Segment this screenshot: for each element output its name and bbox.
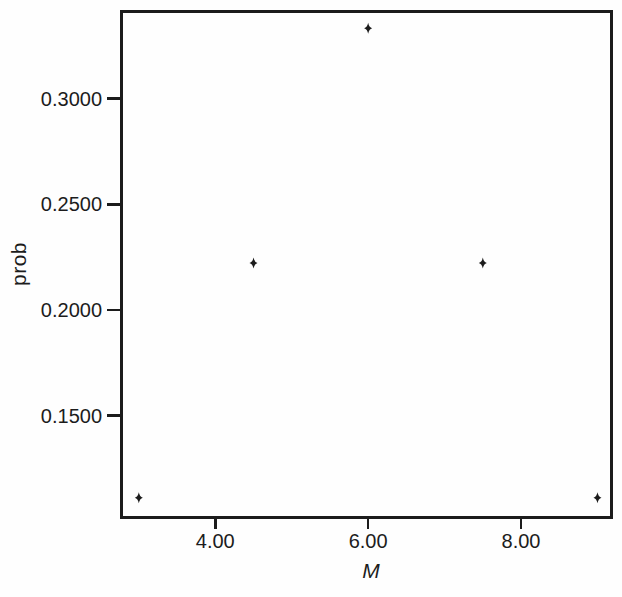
x-axis-tick xyxy=(214,517,217,529)
x-axis-label: M xyxy=(362,559,380,583)
plot-frame xyxy=(120,10,613,519)
x-axis-tick xyxy=(520,517,523,529)
y-axis-tick-label: 0.3000 xyxy=(22,88,102,110)
y-axis-tick xyxy=(107,309,122,312)
scatter-plot-figure: prob M 0.30000.25000.20000.15004.006.008… xyxy=(0,0,622,597)
x-axis-tick-label: 6.00 xyxy=(328,530,408,552)
y-axis-tick-label: 0.1500 xyxy=(22,405,102,427)
y-axis-tick xyxy=(107,414,122,417)
y-axis-tick-label: 0.2000 xyxy=(22,299,102,321)
x-axis-tick xyxy=(367,517,370,529)
y-axis-tick xyxy=(107,203,122,206)
y-axis-tick-label: 0.2500 xyxy=(22,193,102,215)
x-axis-tick-label: 8.00 xyxy=(481,530,561,552)
y-axis-tick xyxy=(107,97,122,100)
x-axis-tick-label: 4.00 xyxy=(175,530,255,552)
y-axis-label: prob xyxy=(7,242,31,286)
